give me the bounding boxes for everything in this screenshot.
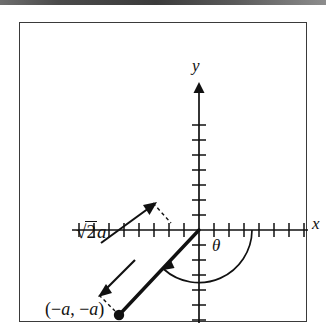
coordinate-var-1: a xyxy=(61,299,70,319)
measure-line-upper xyxy=(101,208,149,243)
segment-length-label: √2a xyxy=(76,221,106,241)
y-axis-label: y xyxy=(192,57,200,74)
arc-icon xyxy=(164,230,253,283)
scan-artifact-band xyxy=(0,0,326,5)
arrow-up-icon xyxy=(194,82,205,93)
minus-sign-2: − xyxy=(79,299,89,319)
minus-sign-1: − xyxy=(51,299,61,319)
coordinate-var-2: a xyxy=(89,299,98,319)
radicand-value: 2 xyxy=(85,221,97,241)
segment-line xyxy=(120,230,199,314)
measure-cap-upper xyxy=(153,203,171,223)
angle-label: θ xyxy=(212,237,220,254)
point-dot-icon xyxy=(114,310,124,320)
figure-frame: x y θ √2a (−a, −a) xyxy=(19,22,307,322)
length-measure-arrows xyxy=(98,202,171,311)
radius-segment xyxy=(114,230,199,320)
coordinate-plot xyxy=(20,23,308,323)
measure-line-lower xyxy=(105,260,135,290)
x-axis-label: x xyxy=(312,215,320,232)
arrow-up-right-icon xyxy=(143,202,157,215)
x-axis xyxy=(72,223,308,237)
coordinate-comma: , xyxy=(70,299,79,319)
paren-close: ) xyxy=(98,299,104,319)
length-coefficient: a xyxy=(97,221,107,242)
figure-page: x y θ √2a (−a, −a) xyxy=(0,0,326,333)
point-coordinates-label: (−a, −a) xyxy=(45,300,104,318)
y-axis xyxy=(192,82,206,323)
